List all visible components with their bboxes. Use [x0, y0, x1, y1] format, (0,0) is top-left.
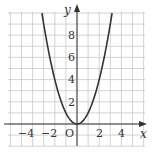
- y-axis-label: y: [63, 3, 71, 17]
- x-axis-label: x: [140, 127, 147, 141]
- y-tick-4: 4: [68, 73, 75, 86]
- x-tick-neg4: −4: [18, 127, 34, 140]
- y-tick-8: 8: [68, 29, 75, 42]
- axes: [4, 4, 147, 146]
- y-tick-6: 6: [68, 51, 75, 64]
- x-tick-4: 4: [118, 127, 125, 140]
- y-axis-arrow-icon: [74, 4, 80, 12]
- x-tick-neg2: −2: [41, 127, 57, 140]
- y-tick-2: 2: [68, 96, 75, 109]
- x-tick-2: 2: [96, 127, 103, 140]
- origin-label: O: [65, 127, 74, 140]
- parabola-chart: x y O −4 −2 2 4 2 4 6 8: [0, 0, 153, 152]
